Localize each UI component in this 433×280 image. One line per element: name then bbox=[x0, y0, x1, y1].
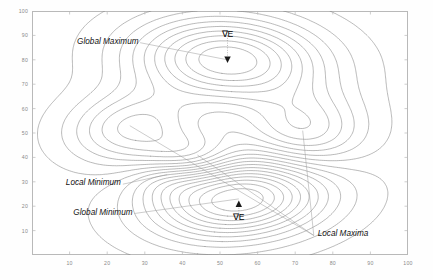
x-tick-label-80: 80 bbox=[324, 260, 342, 266]
contour-lines-layer bbox=[32, 11, 408, 255]
y-tick-label-20: 20 bbox=[10, 203, 28, 209]
annotation-global-maximum: Global Maximum bbox=[77, 37, 138, 46]
y-tick-label-100: 100 bbox=[10, 8, 28, 14]
y-tick-label-60: 60 bbox=[10, 106, 28, 112]
annotation-global-minimum: Global Minimum bbox=[73, 208, 132, 217]
y-tick-label-90: 90 bbox=[10, 32, 28, 38]
gradient-label-upper: ∇E bbox=[222, 29, 234, 39]
y-tick-label-10: 10 bbox=[10, 228, 28, 234]
y-tick-label-70: 70 bbox=[10, 81, 28, 87]
y-tick-label-40: 40 bbox=[10, 154, 28, 160]
contour-paths bbox=[38, 11, 392, 255]
y-tick-label-80: 80 bbox=[10, 57, 28, 63]
x-tick-label-50: 50 bbox=[211, 260, 229, 266]
gradient-label-lower: ∇E bbox=[233, 212, 245, 222]
x-tick-label-70: 70 bbox=[286, 260, 304, 266]
annotation-local-maxima: Local Maxima bbox=[318, 229, 369, 238]
x-tick-label-100: 100 bbox=[399, 260, 417, 266]
annotation-leader-lines bbox=[123, 43, 314, 236]
x-tick-label-60: 60 bbox=[249, 260, 267, 266]
x-tick-label-90: 90 bbox=[361, 260, 379, 266]
annotation-local-minimum: Local Minimum bbox=[66, 178, 121, 187]
x-tick-label-30: 30 bbox=[136, 260, 154, 266]
axis-tick-marks bbox=[32, 11, 408, 255]
y-tick-label-50: 50 bbox=[10, 130, 28, 136]
x-tick-label-10: 10 bbox=[61, 260, 79, 266]
x-tick-label-20: 20 bbox=[98, 260, 116, 266]
contour-plot-figure: 102030405060708090100 102030405060708090… bbox=[0, 0, 433, 280]
x-tick-label-40: 40 bbox=[173, 260, 191, 266]
y-tick-label-30: 30 bbox=[10, 179, 28, 185]
